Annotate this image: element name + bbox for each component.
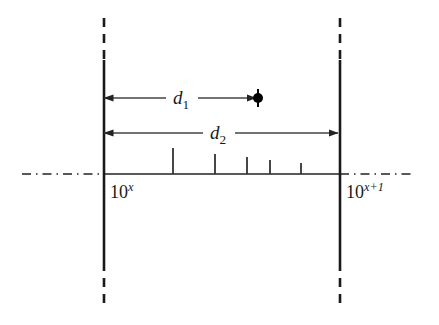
d1-label-subscript: 1 <box>182 97 189 112</box>
right-boundary-label-mantissa: 10 <box>346 182 364 202</box>
left-boundary-label-mantissa: 10 <box>110 182 128 202</box>
left-boundary-label-exponent: x <box>127 180 134 194</box>
value-point-marker <box>253 89 263 107</box>
d1-measure: d1 <box>104 87 256 112</box>
right-boundary-label-exponent: x+1 <box>363 180 384 194</box>
d2-label: d2 <box>210 122 226 147</box>
log-decade-figure: d1 d2 10x 10x+1 <box>0 0 439 325</box>
d1-label: d1 <box>173 87 189 112</box>
right-boundary-label: 10x+1 <box>346 180 384 202</box>
d2-label-base: d <box>210 122 220 143</box>
d2-label-subscript: 2 <box>219 132 226 147</box>
logarithmic-minor-ticks <box>173 148 301 174</box>
d2-measure: d2 <box>104 122 338 147</box>
d1-label-base: d <box>173 87 183 108</box>
marker-dot <box>253 93 263 103</box>
figure-canvas: d1 d2 10x 10x+1 <box>0 0 439 325</box>
left-boundary-label: 10x <box>110 180 134 202</box>
